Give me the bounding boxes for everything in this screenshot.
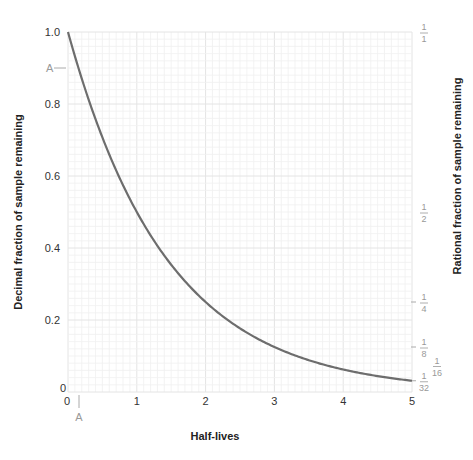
y-tick-label: 0.6	[45, 170, 60, 182]
right-axis-label: Rational fraction of sample remaining	[451, 78, 463, 275]
y-tick-label: 0.8	[45, 98, 60, 110]
fraction-numerator: 1	[421, 371, 426, 381]
fraction-numerator: 1	[421, 22, 426, 32]
fraction-numerator: 1	[421, 202, 426, 212]
fraction-numerator: 1	[421, 292, 426, 302]
fraction-denominator: 2	[421, 214, 426, 224]
x-axis-label: Half-lives	[191, 430, 240, 442]
fraction-denominator: 4	[421, 304, 426, 314]
half-life-chart: 0.20.40.60.81.00 012345 11121418116132 A…	[0, 0, 473, 460]
fraction-denominator: 1	[421, 34, 426, 44]
y-tick-label: 0	[60, 382, 66, 394]
x-tick-label: 0	[64, 395, 70, 407]
x-axis-ticks: 012345	[64, 395, 415, 407]
y-tick-label: 0.4	[45, 242, 60, 254]
y-tick-label: 0.2	[45, 314, 60, 326]
fraction-denominator: 16	[432, 368, 442, 378]
y-axis-label: Decimal fraction of sample remaining	[12, 114, 24, 310]
x-tick-label: 5	[409, 395, 415, 407]
x-tick-label: 4	[340, 395, 346, 407]
fraction-denominator: 32	[419, 383, 429, 393]
y-tick-label: 1.0	[45, 26, 60, 38]
x-tick-label: 2	[203, 395, 209, 407]
fraction-numerator: 1	[421, 337, 426, 347]
y-annotation-a: A	[46, 62, 54, 74]
fraction-denominator: 8	[421, 349, 426, 359]
fraction-numerator: 1	[434, 356, 439, 366]
y-axis-ticks: 0.20.40.60.81.00	[45, 26, 66, 394]
right-axis-fraction-ticks: 11121418116132	[411, 22, 442, 393]
grid	[68, 32, 412, 392]
x-annotation-a: A	[75, 411, 83, 423]
x-tick-label: 1	[134, 395, 140, 407]
x-tick-label: 3	[271, 395, 277, 407]
